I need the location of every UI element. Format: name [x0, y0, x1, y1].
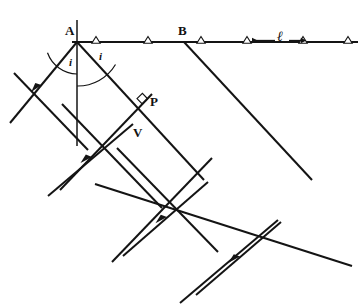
- reflected-wavefront-group: [60, 94, 278, 303]
- hatch-triangle-marker: [344, 37, 352, 44]
- incident-ray-group: [10, 42, 281, 295]
- reflected-ray-group: [77, 42, 352, 266]
- angle-arc-group: [48, 53, 116, 86]
- incident-ray: [196, 222, 281, 295]
- label-point-p: P: [150, 95, 158, 108]
- reflected-wavefront: [60, 94, 152, 190]
- hatch-triangle-marker: [144, 37, 152, 44]
- incident-ray: [123, 182, 208, 256]
- reflection-wavefront-diagram: A B P V i i ℓ: [0, 0, 364, 305]
- label-point-b: B: [178, 24, 187, 37]
- reflected-wavefront: [180, 220, 278, 303]
- incident-wavefront: [62, 104, 162, 208]
- label-angle-of-reflection: i: [99, 51, 102, 62]
- right-angle-marker: [137, 93, 148, 104]
- hatch-triangle-marker: [243, 37, 251, 44]
- right-angle-marker-group: [137, 93, 148, 104]
- reflected-wavefront: [112, 158, 212, 262]
- reflected-ray-from-b: [184, 42, 312, 180]
- hatch-triangle-marker: [92, 37, 100, 44]
- label-point-a: A: [65, 24, 74, 37]
- diagram-canvas: [0, 0, 364, 305]
- incident-wavefront: [117, 148, 218, 252]
- hatch-triangle-marker: [197, 37, 205, 44]
- label-point-v: V: [133, 126, 142, 139]
- label-angle-of-incidence: i: [69, 57, 72, 68]
- label-length-l: ℓ: [277, 30, 283, 44]
- reflected-ray-lower: [95, 184, 352, 266]
- incident-ray: [10, 42, 77, 123]
- angle-of-reflection-arc: [77, 65, 116, 87]
- reflected-ray-from-a: [77, 42, 204, 180]
